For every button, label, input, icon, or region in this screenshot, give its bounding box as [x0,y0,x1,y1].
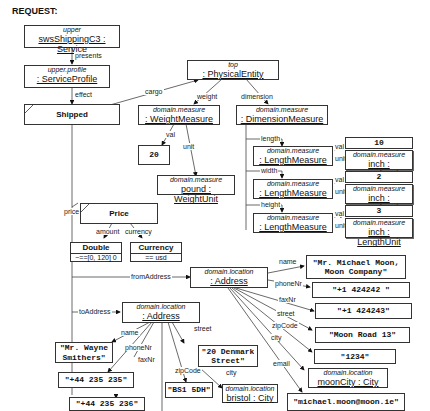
length-measure-stereotype: domain.measure [254,147,332,155]
edge-label-val: val [334,176,345,183]
to-phone-value: "+44 235 235" [58,372,134,388]
double-constraint: ~==[0, 120] 0 [71,253,121,262]
shipped-node[interactable]: Shipped [24,104,120,125]
width-measure-node[interactable]: domain.measure : LengthMeasure [253,179,333,199]
class-corner-icon [25,105,35,115]
edge-label-phoneNr: phoneNr [274,280,303,287]
weight-value: 20 [138,145,170,165]
from-zip-value: "1234" [314,349,396,364]
profile-node[interactable]: upper.profile : ServiceProfile [24,65,110,88]
weight-measure-name: : WeightMeasure [139,114,219,124]
to-street-value: "20 Denmark Street" [198,345,258,367]
weight-unit-stereotype: domain.measure [158,176,234,184]
weight-measure-node[interactable]: domain.measure : WeightMeasure [138,105,220,125]
profile-stereotype: upper.profile [25,66,109,74]
physical-entity-stereotype: top [188,61,278,69]
service-stereotype: upper [25,26,119,34]
to-address-node[interactable]: domain.location : Address [122,302,200,323]
edge-label-street: street [276,310,296,317]
edge-label-zipCode: zipCode [271,322,299,329]
from-city-stereotype: domain.location [309,369,387,377]
from-street-value: "Moon Road 13" [315,327,410,343]
service-node[interactable]: upper swsShippingC3 : Service [24,25,120,48]
weight-unit-node[interactable]: domain.measure pound : WeightUnit [157,175,235,195]
length-measure-node[interactable]: domain.measure : LengthMeasure [253,146,333,166]
dimension-measure-node[interactable]: domain.measure : DimensionMeasure [236,105,328,125]
weight-measure-stereotype: domain.measure [139,106,219,114]
weight-unit-name: pound : WeightUnit [158,184,234,205]
edge-label-val: val [165,131,176,138]
from-address-name: : Address [191,276,267,286]
height-unit-stereotype: domain.measure [346,219,412,227]
length-unit-node[interactable]: domain.measure inch : LengthUnit [345,150,413,170]
from-city-node[interactable]: domain.location moonCity : City [308,368,388,388]
edge-label-price: price [63,208,80,215]
edge-label-currency: currency [124,228,153,235]
width-value: 2 [345,171,413,183]
edge-label-faxNr: faxNr [137,356,156,363]
edge-label-name: name [278,258,298,265]
edge-label-cargo: cargo [144,88,164,95]
double-label: Double [71,243,121,253]
to-fax-value: "+44 235 236" [69,397,145,411]
from-name-value: "Mr. Michael Moon, Moon Company" [306,255,406,279]
height-value: 3 [345,205,413,217]
double-node[interactable]: Double ~==[0, 120] 0 [70,242,122,262]
edge-label-street: street [193,325,213,332]
page-title: REQUEST: [12,6,58,16]
currency-label: Currency [131,243,181,253]
edge-label-dimension: dimension [240,93,274,100]
edge-label-val: val [334,143,345,150]
edge-label-faxNr: faxNr [278,296,297,303]
shipped-label: Shipped [56,110,88,119]
to-address-name: : Address [123,311,199,321]
edge-label-val: val [334,210,345,217]
edge-label-effect: effect [74,91,93,98]
edge-label-height: height [260,201,281,208]
price-label: Price [109,209,129,218]
edge-label-city: city [225,369,238,376]
edge-label-email: email [272,360,291,367]
edge-label-weight: weight [196,93,218,100]
length-value: 10 [345,137,413,149]
from-city-name: moonCity : City [309,377,387,387]
edge-label-presents: presents [74,52,103,59]
edge-label-width: width [260,167,278,174]
physical-entity-node[interactable]: top : PhysicalEntity [187,60,279,80]
from-email-value: "michael.moon@moon.ie" [287,393,405,411]
edge-label-phoneNr: phoneNr [124,344,153,351]
from-address-node[interactable]: domain.location : Address [190,267,268,288]
from-phone-value: "+1 424242 " [312,282,410,298]
width-measure-name: : LengthMeasure [254,188,332,198]
to-city-node[interactable]: domain.location bristol : City [222,384,278,403]
edge-label-fromAddress: fromAddress [130,273,172,280]
profile-name: : ServiceProfile [25,74,109,84]
edge-label-name: name [120,329,140,336]
currency-node[interactable]: Currency == usd [130,242,182,262]
edge-label-unit: unit [182,143,195,150]
service-name: swsShippingC3 : Service [25,34,119,55]
width-unit-stereotype: domain.measure [346,185,412,193]
dimension-measure-name: : DimensionMeasure [237,114,327,124]
width-measure-stereotype: domain.measure [254,180,332,188]
dimension-measure-stereotype: domain.measure [237,106,327,114]
edge-label-toAddress: toAddress [78,308,112,315]
length-unit-stereotype: domain.measure [346,151,412,159]
height-measure-node[interactable]: domain.measure : LengthMeasure [253,213,333,233]
to-zip-value: "BS1 5DH" [165,382,213,398]
currency-constraint: == usd [131,253,181,262]
edge-label-zipCode: zipCode [174,367,202,374]
width-unit-node[interactable]: domain.measure inch : LengthUnit [345,184,413,204]
edge-label-length: length [260,135,281,142]
to-city-name: bristol : City [223,393,277,403]
edge-label-city: city [270,334,283,341]
height-unit-node[interactable]: domain.measure inch : LengthUnit [345,218,413,238]
length-measure-name: : LengthMeasure [254,155,332,165]
price-node[interactable]: Price [80,203,158,224]
from-address-stereotype: domain.location [191,268,267,276]
to-city-stereotype: domain.location [223,385,277,393]
edge-label-amount: amount [95,228,120,235]
height-measure-stereotype: domain.measure [254,214,332,222]
physical-entity-name: : PhysicalEntity [188,69,278,79]
to-address-stereotype: domain.location [123,303,199,311]
